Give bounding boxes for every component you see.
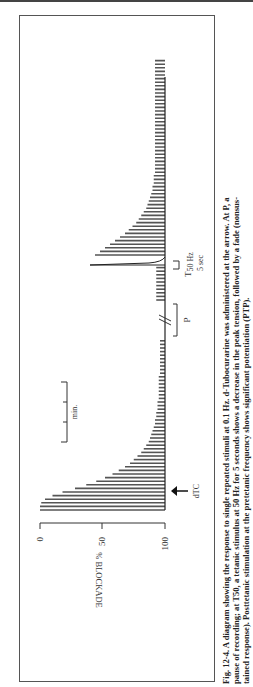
caption-line-2: pause of recording; at T50, a tetanic st… [231,16,241,684]
page-top-rule [0,0,253,2]
y-tick-50: 50 [97,537,107,547]
y-axis-label: % BLOCKADE [94,552,104,607]
caption-line-1: Fig. 12-4. A diagram showing the respons… [221,16,231,684]
dtc-label: dTC [192,484,201,498]
figure-caption: Fig. 12-4. A diagram showing the respons… [221,16,251,684]
tetanus-trace [90,257,165,265]
figure-chart: 0 50 100 % BLOCKADE P T50 Hz 5 sec min. [19,15,215,682]
y-tick-0: 0 [35,537,45,542]
time-scale-bar [61,382,67,442]
y-tick-100: 100 [160,537,170,551]
tetanus-bracket [173,261,179,269]
tetanus-duration: 5 sec [196,254,205,271]
twitch-bars [40,61,165,510]
caption-line-3: tained response). Posttetanic stimulatio… [241,16,251,684]
y-axis [40,523,165,529]
time-scale-label: min. [70,405,79,419]
pause-bracket [173,304,177,336]
tetanus-label: T50 Hz [183,252,195,277]
pause-label: P [182,317,192,322]
dtc-arrow-icon [171,486,188,496]
